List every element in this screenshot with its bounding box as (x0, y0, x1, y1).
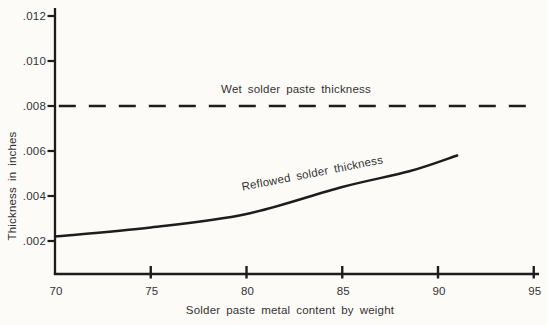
y-tick-label: .006 (23, 145, 46, 157)
y-tick-label: .008 (23, 100, 46, 112)
y-tick-label: .010 (23, 55, 46, 67)
reflowed-solder-thickness-line (55, 156, 457, 237)
y-tick-label: .012 (23, 10, 46, 22)
reflowed-line-label: Reflowed solder thickness (241, 153, 384, 192)
y-tick-label: .002 (23, 235, 46, 247)
x-tick-label: 80 (241, 285, 254, 297)
x-tick-label: 85 (337, 285, 350, 297)
y-tick-label: .004 (23, 190, 47, 202)
solder-thickness-chart: .002.004.006.008.010.012707580859095 Wet… (0, 0, 547, 325)
y-axis-title: Thickness in inches (6, 131, 18, 240)
x-tick-label: 70 (49, 285, 62, 297)
solder-thickness-figure: .002.004.006.008.010.012707580859095 Wet… (0, 0, 547, 325)
x-tick-label: 75 (145, 285, 158, 297)
x-axis-title: Solder paste metal content by weight (186, 304, 395, 316)
plot-layer: .002.004.006.008.010.012707580859095 (23, 8, 542, 297)
x-tick-label: 90 (432, 285, 445, 297)
wet-line-label: Wet solder paste thickness (221, 83, 371, 95)
x-tick-label: 95 (528, 285, 541, 297)
